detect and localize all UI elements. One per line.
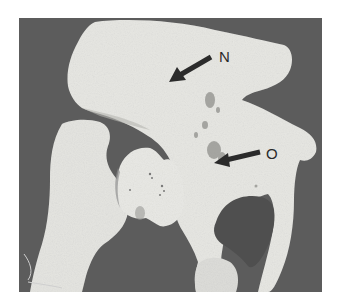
label-n: N — [219, 49, 230, 64]
label-o: O — [266, 146, 278, 161]
